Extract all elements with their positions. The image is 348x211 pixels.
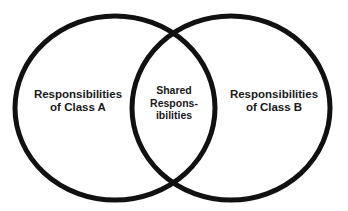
label-class-b-line1: Responsibilities <box>218 88 330 101</box>
label-shared: Shared Respons- ibilities <box>142 84 206 122</box>
label-class-a-line1: Responsibilities <box>22 88 134 101</box>
label-class-a-line2: of Class A <box>22 101 134 114</box>
label-class-b-line2: of Class B <box>218 101 330 114</box>
label-class-a: Responsibilities of Class A <box>22 88 134 114</box>
label-shared-line2: Respons- <box>142 97 206 110</box>
label-shared-line1: Shared <box>142 84 206 97</box>
label-shared-line3: ibilities <box>142 109 206 122</box>
label-class-b: Responsibilities of Class B <box>218 88 330 114</box>
